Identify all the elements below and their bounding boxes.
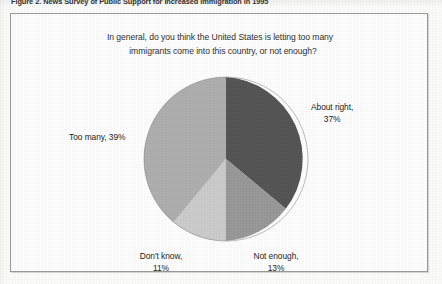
figure-caption: Figure 2. News Survey of Public Support … [11, 0, 431, 8]
figure-panel: In general, do you think the United Stat… [10, 13, 428, 272]
pie-label-too-many: Too many, 39% [69, 132, 125, 144]
pie-label-dont-know: Don't know, 11% [119, 251, 203, 274]
pie-label-dont-know-value: 11% [119, 263, 203, 275]
pie-label-about-right-name: About right, [311, 102, 353, 114]
pie-chart-svg [11, 14, 429, 273]
pie-label-about-right-value: 37% [311, 114, 353, 126]
pie-label-not-enough-value: 13% [233, 263, 319, 275]
pie-label-too-many-name: Too many, 39% [69, 132, 125, 144]
pie-label-not-enough-name: Not enough, [233, 251, 319, 263]
pie-chart: About right, 37% Too many, 39% Don't kno… [11, 14, 429, 273]
pie-label-dont-know-name: Don't know, [119, 251, 203, 263]
pie-label-not-enough: Not enough, 13% [233, 251, 319, 274]
pie-label-about-right: About right, 37% [311, 102, 353, 125]
